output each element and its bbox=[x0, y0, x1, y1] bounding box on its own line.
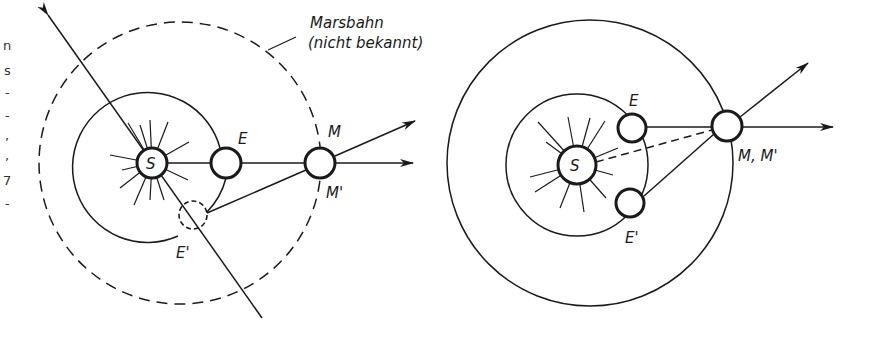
orbit-label: Marsbahn bbox=[310, 14, 384, 32]
mars-label: M bbox=[328, 123, 341, 141]
sun-label: S bbox=[570, 157, 580, 175]
earth-prime-label: E' bbox=[176, 244, 190, 262]
left-labels: Marsbahn (nicht bekannt) S E E' M M' bbox=[146, 14, 423, 262]
earth-prime-label: E' bbox=[625, 229, 639, 247]
svg-text:-: - bbox=[5, 108, 10, 123]
margin-text: n s - - , , 7 - bbox=[3, 38, 11, 211]
mars-icon bbox=[305, 148, 335, 178]
svg-text:n: n bbox=[3, 38, 11, 53]
orbit-label-note: (nicht bekannt) bbox=[308, 34, 423, 52]
left-diagram bbox=[39, 15, 415, 318]
svg-text:,: , bbox=[5, 128, 9, 143]
mars-icon bbox=[712, 111, 742, 141]
mars-label: M, M' bbox=[738, 147, 778, 165]
svg-text:7: 7 bbox=[3, 173, 11, 188]
earth-prime-icon bbox=[616, 189, 644, 217]
mars-prime-label: M' bbox=[326, 184, 343, 202]
svg-text:-: - bbox=[5, 85, 10, 100]
earth-label: E bbox=[238, 130, 248, 148]
sun-label: S bbox=[146, 155, 156, 173]
svg-text:s: s bbox=[4, 63, 11, 78]
svg-text:,: , bbox=[5, 148, 9, 163]
diagram-canvas: n s - - , , 7 - bbox=[0, 0, 870, 345]
svg-text:-: - bbox=[5, 196, 10, 211]
earth-icon bbox=[618, 114, 646, 142]
earth-icon bbox=[211, 148, 241, 178]
earth-label: E bbox=[629, 92, 639, 110]
